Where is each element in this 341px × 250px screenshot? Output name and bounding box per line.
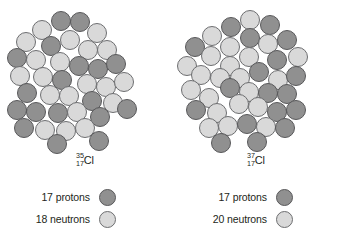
proton-circle <box>107 55 126 74</box>
neutron-swatch-icon <box>99 211 116 228</box>
neutron-circle <box>203 27 222 46</box>
proton-circle <box>248 133 267 152</box>
nucleus-cluster-cl37 <box>171 0 341 155</box>
element-symbol-cl35: Cl <box>84 155 94 166</box>
proton-circle <box>8 49 27 68</box>
proton-swatch-icon <box>276 189 293 206</box>
proton-circle <box>71 13 90 32</box>
atomic-number-cl37: 17 <box>247 160 255 168</box>
proton-circle <box>90 132 109 151</box>
legend-cl35: 17 protons 18 neutrons <box>8 186 178 230</box>
proton-circle <box>187 101 206 120</box>
proton-circle <box>238 115 257 134</box>
nucleus-svg-cl35 <box>0 0 170 155</box>
neutron-circle <box>61 31 80 50</box>
legend-row-neutrons-cl37: 20 neutrons <box>185 208 341 230</box>
proton-circle <box>18 84 37 103</box>
isotope-diagram: 35 17 Cl 17 protons 18 neutrons 37 17 Cl <box>0 0 341 250</box>
neutron-circle <box>51 53 70 72</box>
neutron-circle <box>230 95 249 114</box>
neutron-circle <box>249 98 268 117</box>
legend-label-neutrons-cl37: 20 neutrons <box>185 213 276 225</box>
proton-circle <box>27 103 46 122</box>
neutron-circle <box>202 47 221 66</box>
proton-circle <box>212 134 231 153</box>
proton-circle <box>118 100 137 119</box>
panel-cl37: 37 17 Cl 17 protons 20 neutrons <box>171 0 341 250</box>
neutron-circle <box>241 11 260 30</box>
legend-row-neutrons-cl35: 18 neutrons <box>8 208 178 230</box>
panel-cl35: 35 17 Cl 17 protons 18 neutrons <box>0 0 170 250</box>
legend-label-neutrons-cl35: 18 neutrons <box>8 213 99 225</box>
neutron-circle <box>219 117 238 136</box>
neutron-circle <box>115 73 134 92</box>
proton-circle <box>241 29 260 48</box>
proton-circle <box>49 104 68 123</box>
element-symbol-cl37: Cl <box>255 155 265 166</box>
legend-row-protons-cl35: 17 protons <box>8 186 178 208</box>
neutron-circle <box>78 75 97 94</box>
isotope-numbers-cl35: 35 17 <box>76 152 84 168</box>
neutron-circle <box>221 38 240 57</box>
proton-circle <box>222 18 241 37</box>
proton-circle <box>48 135 67 154</box>
proton-circle <box>287 101 306 120</box>
neutron-swatch-icon <box>276 211 293 228</box>
neutron-circle <box>182 81 201 100</box>
neutron-circle <box>88 24 107 43</box>
proton-circle <box>250 63 269 82</box>
neutron-circle <box>41 86 60 105</box>
proton-swatch-icon <box>99 189 116 206</box>
legend-row-protons-cl37: 17 protons <box>185 186 341 208</box>
proton-circle <box>287 67 306 86</box>
legend-label-protons-cl37: 17 protons <box>185 191 276 203</box>
neutron-circle <box>34 68 53 87</box>
nucleus-cluster-cl35 <box>0 0 170 155</box>
proton-circle <box>261 16 280 35</box>
legend-label-protons-cl35: 17 protons <box>8 191 99 203</box>
legend-cl37: 17 protons 20 neutrons <box>185 186 341 230</box>
proton-circle <box>268 51 287 70</box>
isotope-label-cl35: 35 17 Cl <box>0 152 170 168</box>
atomic-number-cl35: 17 <box>76 160 84 168</box>
proton-circle <box>8 101 27 120</box>
proton-circle <box>278 31 297 50</box>
neutron-circle <box>27 51 46 70</box>
neutron-circle <box>289 48 308 67</box>
proton-circle <box>276 119 295 138</box>
isotope-label-cl37: 37 17 Cl <box>171 152 341 168</box>
proton-circle <box>52 12 71 31</box>
neutron-circle <box>11 67 30 86</box>
proton-circle <box>15 119 34 138</box>
nucleus-svg-cl37 <box>171 0 341 155</box>
isotope-numbers-cl37: 37 17 <box>247 152 255 168</box>
proton-circle <box>70 57 89 76</box>
